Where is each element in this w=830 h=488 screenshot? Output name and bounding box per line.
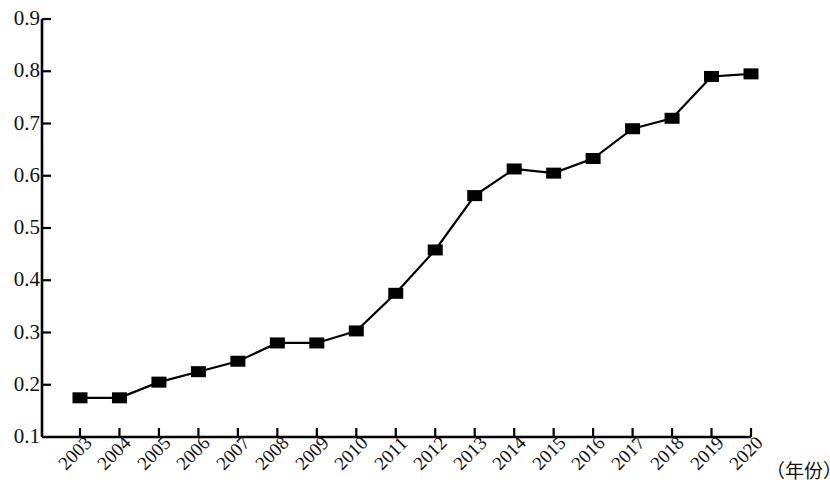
data-point-marker bbox=[191, 366, 206, 377]
axes bbox=[42, 19, 751, 437]
y-axis-tick-label: 0.9 bbox=[0, 8, 40, 29]
data-point-marker bbox=[309, 337, 324, 348]
y-axis-tick-label: 0.5 bbox=[0, 217, 40, 238]
data-point-marker bbox=[73, 392, 88, 403]
data-point-marker bbox=[467, 190, 482, 201]
data-point-marker bbox=[428, 244, 443, 255]
y-axis-tick-label: 0.2 bbox=[0, 374, 40, 395]
data-point-marker bbox=[546, 168, 561, 179]
data-point-marker bbox=[349, 325, 364, 336]
data-point-marker bbox=[230, 356, 245, 367]
data-series bbox=[73, 68, 759, 403]
data-point-marker bbox=[665, 113, 680, 124]
data-point-marker bbox=[586, 153, 601, 164]
y-axis-tick-label: 0.1 bbox=[0, 426, 40, 447]
plot-area bbox=[0, 0, 830, 488]
data-point-marker bbox=[270, 337, 285, 348]
data-point-marker bbox=[151, 377, 166, 388]
data-point-marker bbox=[388, 288, 403, 299]
data-point-marker bbox=[507, 163, 522, 174]
data-point-marker bbox=[744, 68, 759, 79]
y-axis-tick-label: 0.7 bbox=[0, 113, 40, 134]
x-axis-title: （年份） bbox=[766, 456, 830, 483]
data-point-marker bbox=[625, 123, 640, 134]
y-axis-tick-label: 0.4 bbox=[0, 269, 40, 290]
y-axis-tick-label: 0.3 bbox=[0, 322, 40, 343]
data-point-marker bbox=[112, 392, 127, 403]
data-point-marker bbox=[704, 71, 719, 82]
line-chart: 0.90.80.70.60.50.40.30.20.1 200320042005… bbox=[0, 0, 830, 488]
series-line bbox=[80, 74, 751, 398]
y-axis-tick-label: 0.8 bbox=[0, 60, 40, 81]
y-axis-tick-label: 0.6 bbox=[0, 165, 40, 186]
